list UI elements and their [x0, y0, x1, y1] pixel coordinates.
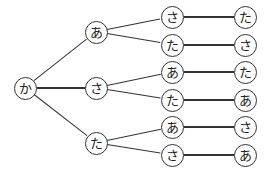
tree-node: あ	[234, 89, 257, 112]
tree-edge	[184, 126, 234, 127]
tree-node: あ	[234, 144, 257, 167]
tree-node: た	[234, 6, 257, 29]
tree-node: さ	[234, 116, 257, 139]
tree-edge	[184, 44, 234, 45]
tree-edge	[37, 87, 85, 88]
tree-diagram: かあさたさたあたあさたさたあさあ	[0, 0, 266, 177]
tree-edge	[107, 19, 161, 31]
tree-node: さ	[161, 6, 184, 29]
tree-edge	[107, 33, 161, 43]
tree-node: さ	[234, 34, 257, 57]
tree-edge	[107, 89, 160, 99]
tree-root-node: か	[14, 77, 37, 100]
tree-node: さ	[85, 77, 108, 100]
tree-node: た	[234, 61, 257, 84]
tree-edge	[107, 144, 160, 154]
tree-node: た	[161, 89, 184, 112]
tree-edge	[184, 16, 234, 17]
tree-edge	[184, 71, 234, 72]
tree-node: さ	[161, 144, 184, 167]
tree-node: た	[161, 34, 184, 57]
tree-edge	[34, 95, 88, 137]
tree-edge	[184, 154, 234, 155]
tree-edge	[34, 39, 88, 82]
tree-node: あ	[161, 116, 184, 139]
tree-node: あ	[161, 61, 184, 84]
tree-edge	[107, 74, 161, 86]
tree-node: あ	[85, 21, 108, 44]
tree-edge	[184, 99, 234, 100]
tree-edge	[107, 129, 161, 141]
tree-node: た	[85, 132, 108, 155]
